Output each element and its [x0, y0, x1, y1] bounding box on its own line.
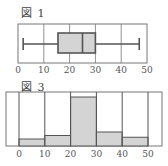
boxplot-x-tick-label: 10: [38, 65, 50, 75]
histogram-x-tick-label: 0: [16, 149, 22, 159]
histogram-x-tick-label: 20: [65, 149, 77, 159]
boxplot-x-tick-label: 20: [64, 65, 76, 75]
histogram-x-tick-label: 10: [39, 149, 51, 159]
histogram-bar: [19, 139, 45, 146]
histogram-bar: [45, 136, 71, 147]
histogram-x-tick-label: 30: [91, 149, 103, 159]
histogram-x-tick-label: 40: [116, 149, 128, 159]
histogram-bar: [96, 132, 122, 146]
boxplot-x-tick-label: 30: [90, 65, 102, 75]
boxplot-x-tick-label: 40: [115, 65, 127, 75]
boxplot-box: [58, 33, 95, 53]
charts-canvas: 0102030405001020304050: [0, 0, 168, 166]
histogram-bar: [122, 137, 148, 146]
histogram-x-tick-label: 50: [142, 149, 154, 159]
histogram-bar: [71, 97, 97, 146]
boxplot-x-tick-label: 0: [15, 65, 21, 75]
boxplot-x-tick-label: 50: [141, 65, 153, 75]
